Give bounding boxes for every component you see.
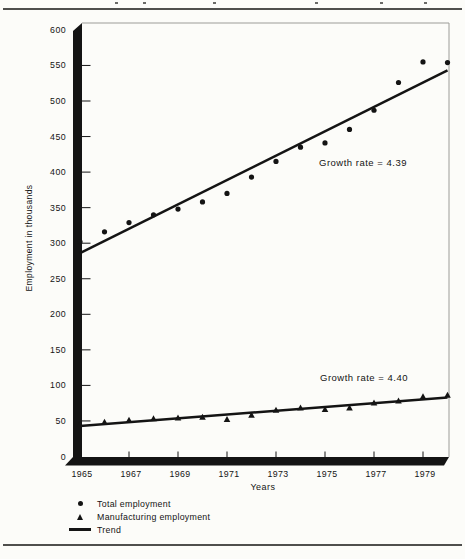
y-tick-label: 350	[50, 203, 66, 213]
manufacturing-employment-point	[150, 415, 157, 421]
employment-scatter-chart: 0501001502002503003504004505005506001965…	[0, 0, 465, 559]
total-employment-point	[273, 159, 278, 164]
figure-page: 0501001502002503003504004505005506001965…	[0, 0, 465, 559]
total-employment-point	[151, 212, 156, 217]
x-tick-label: 1967	[120, 469, 141, 479]
trend-line-marker-icon	[69, 528, 91, 531]
legend-item-total: Total employment	[68, 497, 210, 510]
x-tick-label: 1971	[218, 469, 239, 479]
y-tick-label: 400	[50, 167, 66, 177]
total-employment-point	[126, 220, 131, 225]
y-tick-label: 50	[55, 416, 66, 426]
growth-rate-total-annotation: Growth rate = 4.39	[319, 157, 407, 168]
total-employment-point	[102, 229, 107, 234]
bottom-rule	[3, 544, 462, 546]
manufacturing-employment-point	[224, 416, 231, 422]
y-tick-label: 200	[50, 309, 66, 319]
x-tick-label: 1975	[316, 469, 337, 479]
total-employment-point	[224, 191, 229, 196]
legend-item-manufacturing: Manufacturing employment	[68, 510, 210, 523]
triangle-marker-icon	[77, 514, 83, 520]
x-tick-label: 1969	[169, 469, 190, 479]
total-employment-point	[322, 140, 327, 145]
manufacturing-employment-point	[420, 393, 427, 399]
manufacturing-employment-point	[126, 417, 133, 423]
y-tick-label: 100	[50, 380, 66, 390]
x-tick-label: 1973	[267, 469, 288, 479]
legend-label-total: Total employment	[97, 499, 171, 509]
x-axis-bar	[65, 457, 449, 466]
y-tick-label: 550	[50, 60, 66, 70]
total-employment-point	[347, 127, 352, 132]
legend-item-trend: Trend	[68, 523, 210, 536]
total-employment-point	[420, 59, 425, 64]
y-tick-label: 150	[50, 345, 66, 355]
y-tick-label: 450	[50, 132, 66, 142]
y-tick-label: 250	[50, 274, 66, 284]
x-tick-label: 1965	[71, 469, 92, 479]
total-employment-point	[445, 60, 450, 65]
total-employment-point	[175, 206, 180, 211]
y-tick-label: 600	[50, 25, 66, 35]
total-employment-point	[200, 199, 205, 204]
total-employment-point	[298, 145, 303, 150]
trend-line-1	[80, 397, 448, 425]
x-tick-label: 1977	[365, 469, 386, 479]
y-tick-label: 300	[50, 238, 66, 248]
growth-rate-manufacturing-annotation: Growth rate = 4.40	[320, 372, 408, 383]
x-axis-title: Years	[250, 482, 275, 492]
total-employment-point	[371, 108, 376, 113]
legend-label-trend: Trend	[97, 525, 121, 535]
manufacturing-employment-point	[101, 419, 108, 425]
x-tick-label: 1979	[414, 469, 435, 479]
circle-marker-icon	[78, 501, 83, 506]
total-employment-point	[77, 239, 82, 244]
legend: Total employment Manufacturing employmen…	[68, 497, 210, 536]
y-tick-label: 0	[61, 452, 66, 462]
y-axis-title: Employment in thousands	[24, 184, 34, 291]
total-employment-point	[249, 174, 254, 179]
manufacturing-employment-point	[444, 392, 451, 398]
y-tick-label: 500	[50, 96, 66, 106]
total-employment-point	[396, 80, 401, 85]
legend-label-manufacturing: Manufacturing employment	[97, 512, 210, 522]
